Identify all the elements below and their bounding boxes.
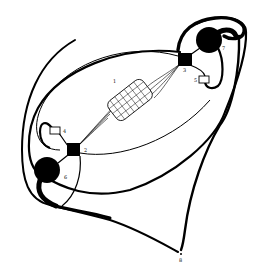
label-upper-chamber: 5 (194, 77, 197, 83)
lower-junction-block (67, 143, 80, 156)
upper-junction-to-bulb (190, 48, 200, 55)
outer-left-thin-extension (56, 206, 110, 218)
schematic-diagram: 1 2 3 4 5 6 7 8 (0, 0, 264, 276)
label-apex: 8 (179, 257, 182, 263)
lower-junction-to-bulb (58, 155, 68, 163)
upper-bulb-tail (219, 30, 236, 36)
label-upper-junction: 3 (183, 67, 186, 73)
fibre-bundle-upper (148, 64, 180, 98)
lower-bulb-loop (62, 156, 80, 206)
lower-chamber (50, 127, 60, 134)
apex-point (180, 253, 182, 255)
upper-junction-to-chamber (190, 65, 205, 76)
label-lower-chamber: 4 (63, 128, 66, 134)
label-lower-bulb: 6 (64, 174, 67, 180)
label-lower-junction: 2 (84, 147, 87, 153)
upper-chamber (199, 76, 209, 83)
fibre-bundle-lower (78, 106, 114, 146)
outer-right-boundary (181, 36, 239, 250)
upper-junction-block (178, 53, 192, 66)
label-mesh: 1 (113, 78, 116, 84)
label-upper-bulb: 7 (222, 45, 225, 51)
